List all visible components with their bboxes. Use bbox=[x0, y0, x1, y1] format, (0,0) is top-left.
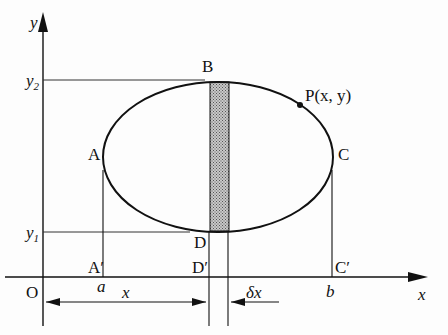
point-d-prime-label: D′ bbox=[192, 258, 208, 277]
tick-b-label: b bbox=[326, 282, 335, 301]
shaded-strip bbox=[210, 82, 229, 231]
y1-label: y1 bbox=[24, 223, 39, 244]
point-c-prime-label: C′ bbox=[335, 258, 350, 277]
tick-a-label: a bbox=[97, 277, 106, 296]
x-axis-label: x bbox=[417, 285, 426, 304]
x-dimension-label: x bbox=[121, 283, 130, 302]
x-axis-arrow-icon bbox=[408, 272, 428, 282]
point-p-label: P(x, y) bbox=[305, 86, 351, 105]
point-a-prime-label: A′ bbox=[88, 258, 104, 277]
y2-label: y2 bbox=[24, 71, 40, 92]
dx-arrowhead-icon bbox=[231, 298, 245, 306]
origin-label: O bbox=[26, 283, 38, 302]
point-p-marker bbox=[297, 102, 303, 108]
dx-label: δx bbox=[246, 283, 262, 302]
point-b-label: B bbox=[202, 57, 213, 76]
y-axis-arrow-icon bbox=[38, 12, 48, 32]
point-a-label: A bbox=[88, 145, 101, 164]
x-dimension-right-arrowhead-icon bbox=[192, 298, 206, 306]
y-axis-label: y bbox=[28, 13, 38, 32]
point-d-label: D bbox=[194, 233, 206, 252]
point-c-label: C bbox=[338, 145, 349, 164]
x-dimension-left-arrowhead-icon bbox=[46, 298, 60, 306]
ellipse-strip-diagram: y x O y2 y1 a b A B C D A′ D′ C′ P(x, y)… bbox=[0, 0, 448, 335]
diagram-canvas: y x O y2 y1 a b A B C D A′ D′ C′ P(x, y)… bbox=[0, 0, 448, 335]
